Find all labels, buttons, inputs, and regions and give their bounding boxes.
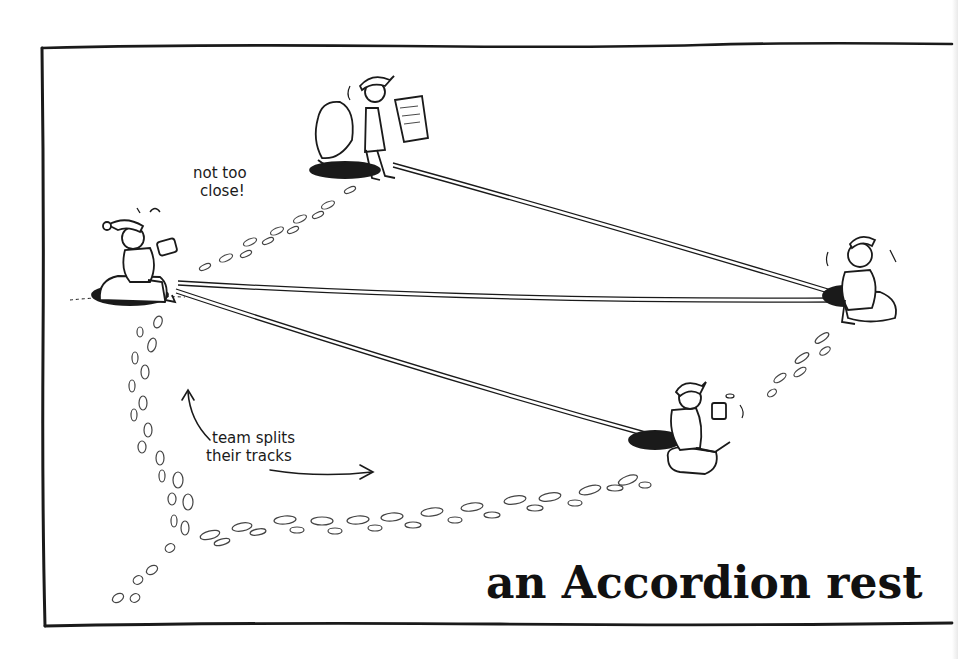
rope-lines: [176, 163, 838, 440]
climber-right-figure: [823, 237, 896, 324]
arrow-up: [182, 390, 210, 440]
annotation-team-splits-line1: team splits: [212, 429, 295, 447]
footprint-trail-right: [766, 331, 831, 398]
footprint-trail-bottom: [199, 473, 651, 547]
climber-top-figure: [310, 76, 428, 180]
arrow-right: [270, 465, 373, 479]
climber-bottom-figure: [629, 382, 743, 474]
annotation-team-splits-line2: their tracks: [206, 447, 292, 465]
footprint-trail-left: [111, 315, 193, 604]
illustration-title: an Accordion rest: [486, 557, 923, 608]
annotation-not-too-close: not too close!: [193, 164, 247, 200]
climber-left-figure: [70, 208, 185, 305]
annotation-not-too-close-line1: not too: [193, 164, 247, 182]
accordion-rest-illustration: not too close! team splits their tracks …: [0, 0, 958, 659]
annotation-not-too-close-line2: close!: [200, 182, 245, 200]
annotation-team-splits: team splits their tracks: [206, 429, 295, 465]
frame-border: [42, 43, 952, 626]
